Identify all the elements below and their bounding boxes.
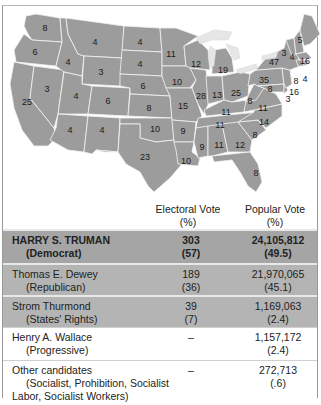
electoral-percent: (36)	[153, 281, 229, 294]
ev-label-ne: 6	[140, 81, 145, 91]
popular-cell: 272,713 (.6)	[235, 364, 321, 390]
ev-label-nd: 4	[137, 37, 142, 47]
ev-label-ar: 9	[180, 126, 185, 136]
ev-label-ga: 12	[235, 140, 245, 150]
electoral-vote-unit: (%)	[150, 216, 226, 229]
ev-label-wy: 3	[98, 67, 103, 77]
electoral-percent: (7)	[153, 313, 229, 326]
electoral-value: 189	[153, 268, 229, 281]
electoral-value: 39	[153, 300, 229, 313]
ev-label-id: 4	[65, 57, 70, 67]
popular-vote-title: Popular Vote	[232, 203, 318, 216]
popular-value: 21,970,065	[235, 268, 321, 281]
candidate-party-line2: Labor, Socialist Workers)	[12, 390, 192, 403]
candidate-party: (Socialist, Prohibition, Socialist	[12, 377, 192, 390]
ev-label-oh: 25	[231, 88, 241, 98]
candidate-name: Henry A. Wallace	[12, 331, 172, 344]
popular-percent: (45.1)	[235, 281, 321, 294]
popular-cell: 21,970,065 (45.1)	[235, 268, 321, 294]
electoral-vote-title: Electoral Vote	[150, 203, 226, 216]
lake-superior	[196, 30, 232, 44]
ev-label-ky: 11	[221, 107, 230, 117]
ev-label-mt: 4	[92, 37, 97, 47]
electoral-cell: –	[153, 331, 229, 344]
candidate-name: HARRY S. TRUMAN	[12, 234, 172, 247]
ev-label-nv: 3	[44, 84, 49, 94]
us-electoral-map: 8 6 25 4 3 4 3 4 4 6 4 4 4 6 8 10 23 11 …	[0, 0, 321, 200]
ev-label-az: 4	[67, 125, 72, 135]
electoral-percent: (57)	[153, 247, 229, 260]
state-nm	[84, 116, 120, 154]
popular-value: 272,713	[235, 364, 321, 377]
table-row-thurmond: Strom Thurmond (States' Rights) 39 (7) 1…	[3, 295, 317, 327]
ev-label-ny: 47	[269, 57, 279, 67]
ev-label-ms: 9	[199, 142, 204, 152]
results-table: HARRY S. TRUMAN (Democrat) 303 (57) 24,1…	[3, 229, 317, 405]
ev-label-tn: 11	[215, 120, 224, 130]
ev-label-de: 3	[285, 94, 290, 104]
candidate-party: (Democrat)	[12, 247, 172, 260]
ev-label-wi: 12	[191, 59, 201, 69]
ev-label-mo: 15	[178, 101, 188, 111]
ev-label-mi: 19	[218, 65, 228, 75]
ev-label-nh: 4	[289, 52, 294, 62]
ev-label-sc: 8	[252, 130, 257, 140]
popular-vote-unit: (%)	[232, 216, 318, 229]
ev-label-wv: 8	[247, 96, 252, 106]
electoral-cell: 303 (57)	[153, 234, 229, 260]
ev-label-vt: 3	[281, 48, 286, 58]
table-row-truman: HARRY S. TRUMAN (Democrat) 303 (57) 24,1…	[3, 229, 317, 263]
ev-label-me: 5	[297, 35, 302, 45]
electoral-value: 303	[153, 234, 229, 247]
ev-label-la: 10	[181, 156, 191, 166]
candidate-name: Thomas E. Dewey	[12, 268, 172, 281]
electoral-vote-header: Electoral Vote (%)	[150, 203, 226, 229]
popular-value: 1,157,172	[235, 331, 321, 344]
popular-percent: (2.4)	[235, 313, 321, 326]
ev-label-va: 11	[258, 103, 267, 113]
ev-label-co: 6	[105, 96, 110, 106]
candidate-cell: Henry A. Wallace (Progressive)	[12, 331, 172, 357]
ev-label-ia: 10	[172, 77, 182, 87]
popular-percent: (.6)	[235, 377, 321, 390]
ev-label-ut: 4	[73, 91, 78, 101]
ev-label-ma: 16	[300, 56, 310, 66]
popular-cell: 1,169,063 (2.4)	[235, 300, 321, 326]
ev-label-md: 8	[267, 84, 272, 94]
ev-label-ri: 4	[302, 74, 307, 84]
ev-label-tx: 23	[140, 152, 150, 162]
popular-cell: 24,105,812 (49.5)	[235, 234, 321, 260]
ev-label-il: 28	[196, 91, 206, 101]
table-row-wallace: Henry A. Wallace (Progressive) – 1,157,1…	[3, 327, 317, 360]
popular-value: 1,169,063	[235, 300, 321, 313]
ev-label-wa: 8	[42, 23, 47, 33]
ev-label-ok: 10	[150, 124, 160, 134]
ev-label-nc: 14	[259, 117, 269, 127]
candidate-cell: Thomas E. Dewey (Republican)	[12, 268, 172, 294]
ev-label-mn: 11	[166, 49, 175, 59]
candidate-cell: Strom Thurmond (States' Rights)	[12, 300, 172, 326]
candidate-name: Strom Thurmond	[12, 300, 172, 313]
electoral-cell: –	[153, 364, 229, 377]
electoral-cell: 39 (7)	[153, 300, 229, 326]
electoral-value: –	[153, 331, 229, 344]
candidate-party: (Republican)	[12, 281, 172, 294]
ev-label-sd: 4	[137, 59, 142, 69]
electoral-cell: 189 (36)	[153, 268, 229, 294]
popular-percent: (49.5)	[235, 247, 321, 260]
ev-label-fl: 8	[253, 168, 258, 178]
ev-label-ct: 8	[293, 76, 298, 86]
state-me	[300, 14, 320, 46]
ev-label-ks: 8	[146, 103, 151, 113]
electoral-value: –	[153, 364, 229, 377]
table-row-other: Other candidates (Socialist, Prohibition…	[3, 360, 317, 405]
ev-label-al: 11	[214, 140, 223, 150]
popular-value: 24,105,812	[235, 234, 321, 247]
table-row-dewey: Thomas E. Dewey (Republican) 189 (36) 21…	[3, 263, 317, 295]
ev-label-ca: 25	[22, 97, 32, 107]
ev-label-or: 6	[32, 47, 37, 57]
candidate-party: (States' Rights)	[12, 313, 172, 326]
ev-label-nm: 4	[99, 125, 104, 135]
popular-vote-header: Popular Vote (%)	[232, 203, 318, 229]
candidate-party: (Progressive)	[12, 344, 172, 357]
